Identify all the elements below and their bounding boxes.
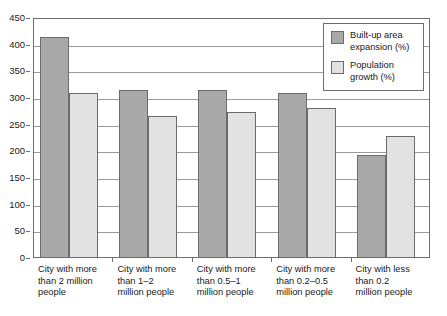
bar-series-1 [148,116,177,258]
x-axis-category-label-line: City with more [197,264,270,276]
x-axis-category-label-line: people [38,287,111,299]
y-axis-tick-mark [26,205,30,206]
x-axis-category-label: City with morethan 1–2million people [117,264,190,299]
bar-series-1 [227,112,256,258]
x-axis-category-label-line: City with more [276,264,349,276]
legend-item-population-growth: Population growth (%) [331,60,417,83]
x-axis-tick-mark [351,258,352,262]
y-axis-tick-mark [26,231,30,232]
y-axis-tick-label: 250 [9,120,25,130]
x-axis-tick-mark [192,258,193,262]
y-axis-tick-mark [26,151,30,152]
legend-label-line: growth (%) [350,72,395,82]
bar-series-1 [386,136,415,258]
bar-series-1 [307,108,336,258]
bar-series-0 [357,155,386,258]
legend-label-series-0: Built-up area expansion (%) [350,30,409,53]
y-axis-tick-mark [26,178,30,179]
x-axis-tick-mark [271,258,272,262]
x-axis-category-label: City with morethan 0.5–1million people [197,264,270,299]
y-axis-tick-mark [26,258,30,259]
x-axis-category-label-line: than 2 million [38,276,111,288]
y-axis-tick-mark [26,18,30,19]
x-axis-category-label-line: than 0.5–1 [197,276,270,288]
y-axis-tick-label: 200 [9,147,25,157]
legend-label-series-1: Population growth (%) [350,60,395,83]
x-axis-category-label-line: than 0.2 [356,276,429,288]
y-axis-tick-mark [26,45,30,46]
legend-label-line: Built-up area [350,30,403,40]
x-axis-category-label: City with morethan 0.2–0.5million people [276,264,349,299]
bar-group [112,18,191,258]
y-axis-tick-label: 150 [9,173,25,183]
bar-chart: 050100150200250300350400450 City with mo… [0,0,447,316]
y-axis-tick-label: 300 [9,93,25,103]
y-axis-tick-label: 0 [20,253,25,263]
y-axis-tick-mark [26,71,30,72]
x-axis-category-label: City with lessthan 0.2million people [356,264,429,299]
y-axis-tick-label: 100 [9,200,25,210]
y-axis-tick-label: 400 [9,40,25,50]
y-axis-tick-label: 450 [9,13,25,23]
legend-swatch-icon-series-1 [331,61,344,74]
bar-series-0 [278,93,307,258]
bar-series-0 [119,90,148,258]
bar-series-0 [40,37,69,258]
x-axis-category-label-line: than 1–2 [117,276,190,288]
bar-group [192,18,271,258]
x-axis-category-label-line: City with less [356,264,429,276]
x-axis-category-label-line: million people [276,287,349,299]
x-axis-category-label-line: than 0.2–0.5 [276,276,349,288]
bar-series-1 [69,93,98,258]
x-axis-tick-mark [112,258,113,262]
legend-label-line: expansion (%) [350,42,409,52]
x-axis-category-label-line: million people [117,287,190,299]
legend-swatch-icon-series-0 [331,31,344,44]
x-axis-category-label: City with morethan 2 millionpeople [38,264,111,299]
y-axis-tick-mark [26,98,30,99]
chart-legend: Built-up area expansion (%) Population g… [323,23,424,91]
x-axis-category-label-line: million people [197,287,270,299]
y-axis: 050100150200250300350400450 [0,18,30,258]
y-axis-tick-label: 50 [14,227,25,237]
y-axis-tick-mark [26,125,30,126]
bar-group [33,18,112,258]
legend-item-built-up-area-expansion: Built-up area expansion (%) [331,30,417,53]
y-axis-tick-label: 350 [9,67,25,77]
x-axis-category-label-line: City with more [38,264,111,276]
x-axis-category-label-line: million people [356,287,429,299]
legend-label-line: Population [350,60,394,70]
x-axis-labels: City with morethan 2 millionpeopleCity w… [33,264,430,310]
x-axis-category-label-line: City with more [117,264,190,276]
bar-series-0 [198,90,227,258]
